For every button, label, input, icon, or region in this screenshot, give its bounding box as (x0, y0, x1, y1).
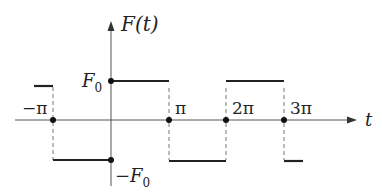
tick-label-2pi: 2π (232, 98, 254, 118)
x-axis-label: t (365, 109, 373, 130)
tick-label-3pi: 3π (290, 98, 312, 118)
low-level-label: −F0 (115, 165, 150, 190)
x-axis-arrow-icon (347, 117, 357, 124)
tick-label-neg-pi: −π (22, 98, 47, 118)
y-axis-arrow-icon (108, 21, 115, 31)
high-level-label: F0 (81, 70, 102, 95)
tick-label-pi: π (175, 98, 186, 118)
y-axis-label: F(t) (120, 12, 159, 36)
square-wave-diagram: F(t) t F0 −F0 −π π 2π 3π (0, 0, 382, 193)
